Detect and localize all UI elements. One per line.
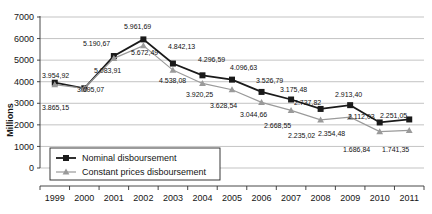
x-tick-label: 2011 (400, 193, 419, 203)
line-chart: 01000200030004000500060007000 1999200020… (0, 0, 432, 214)
point-value-label: 2.112,03 (348, 113, 375, 120)
y-tick-label: 6000 (14, 34, 34, 44)
legend-label: Constant prices disboursement (82, 167, 207, 177)
x-tick-label: 2000 (74, 193, 94, 203)
point-value-label: 2.737,82 (294, 99, 321, 106)
chart-canvas: 01000200030004000500060007000 1999200020… (0, 0, 432, 214)
y-tick-label: 4000 (14, 77, 34, 87)
x-tick-label: 2009 (340, 193, 360, 203)
y-tick-label: 3000 (14, 98, 34, 108)
point-value-label: 5.083,91 (94, 67, 121, 74)
data-point-marker (377, 119, 383, 125)
y-tick-label: 0 (29, 163, 34, 173)
point-value-label: 3.695,07 (77, 86, 104, 93)
point-value-label: 5.672,49 (131, 49, 158, 56)
x-tick-label: 2006 (252, 193, 272, 203)
point-value-label: 2.235,02 (288, 132, 315, 139)
data-point-marker (229, 77, 235, 83)
point-value-label: 3.865,15 (42, 104, 69, 111)
y-axis-ticks: 01000200030004000500060007000 (14, 12, 40, 173)
point-value-label: 4.096,63 (230, 64, 257, 71)
legend: Nominal disboursementConstant prices dis… (50, 148, 220, 180)
y-tick-label: 7000 (14, 12, 34, 22)
x-tick-label: 2007 (281, 193, 301, 203)
point-value-label: 2.251,05 (380, 112, 407, 119)
data-point-marker (199, 72, 205, 78)
point-value-label: 2.668,55 (264, 122, 291, 129)
x-tick-label: 2004 (192, 193, 212, 203)
point-value-label: 3.954,92 (42, 72, 69, 79)
data-point-marker (347, 102, 353, 108)
point-value-label: 4.538,08 (159, 77, 186, 84)
x-tick-label: 2010 (370, 193, 390, 203)
legend-label: Nominal disboursement (82, 153, 177, 163)
point-value-label: 3.628,54 (210, 102, 237, 109)
y-axis-title: Millions (5, 103, 15, 137)
x-tick-label: 2003 (163, 193, 183, 203)
data-point-marker (140, 36, 146, 42)
y-tick-label: 5000 (14, 55, 34, 65)
x-tick-label: 2005 (222, 193, 242, 203)
point-value-label: 5.961,69 (124, 23, 151, 30)
legend-marker (63, 155, 69, 161)
point-value-label: 2.913,40 (335, 91, 362, 98)
x-tick-label: 2002 (133, 193, 153, 203)
data-point-marker (199, 80, 206, 86)
point-value-label: 2.354,48 (318, 130, 345, 137)
point-value-label: 3.175,48 (280, 86, 307, 93)
point-value-label: 4.296,59 (198, 56, 225, 63)
point-value-label: 4.842,13 (168, 43, 195, 50)
point-value-label: 1.741,35 (382, 146, 409, 153)
point-value-label: 1.686,84 (343, 146, 370, 153)
y-tick-label: 2000 (14, 120, 34, 130)
x-tick-label: 2008 (311, 193, 331, 203)
x-axis: 1999200020012002200320042005200620072008… (40, 186, 424, 203)
x-tick-label: 1999 (45, 193, 65, 203)
point-value-label: 5.190,67 (83, 40, 110, 47)
point-value-label: 3.920,25 (186, 91, 213, 98)
point-value-label: 3.526,79 (256, 77, 283, 84)
data-point-marker (140, 42, 147, 48)
y-tick-label: 1000 (14, 142, 34, 152)
x-tick-label: 2001 (104, 193, 124, 203)
point-value-label: 3.044,66 (240, 111, 267, 118)
data-point-marker (170, 61, 176, 67)
data-point-marker (318, 106, 324, 112)
data-point-marker (259, 89, 265, 95)
